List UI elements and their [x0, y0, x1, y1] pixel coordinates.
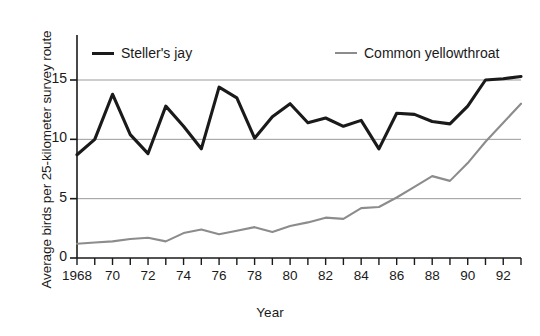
legend-swatch-common-yellowthroat	[335, 52, 357, 54]
legend-label-common-yellowthroat: Common yellowthroat	[364, 45, 499, 61]
x-tick-label: 92	[481, 268, 525, 283]
series-line-common-yellowthroat	[77, 104, 521, 244]
x-axis-title: Year	[0, 305, 540, 320]
y-tick-label: 15	[25, 70, 67, 86]
y-tick-label: 0	[25, 248, 67, 264]
legend-item-stellers-jay: Steller's jay	[92, 45, 192, 61]
legend-swatch-stellers-jay	[92, 52, 114, 55]
legend-label-stellers-jay: Steller's jay	[121, 45, 192, 61]
y-axis-title: Average birds per 25-kilometer survey ro…	[39, 10, 54, 310]
y-tick-label: 10	[25, 129, 67, 145]
legend-item-common-yellowthroat: Common yellowthroat	[335, 45, 499, 61]
bird-survey-line-chart: Average birds per 25-kilometer survey ro…	[0, 0, 540, 336]
y-tick-label: 5	[25, 189, 67, 205]
series-line-stellers-jay	[77, 76, 521, 154]
